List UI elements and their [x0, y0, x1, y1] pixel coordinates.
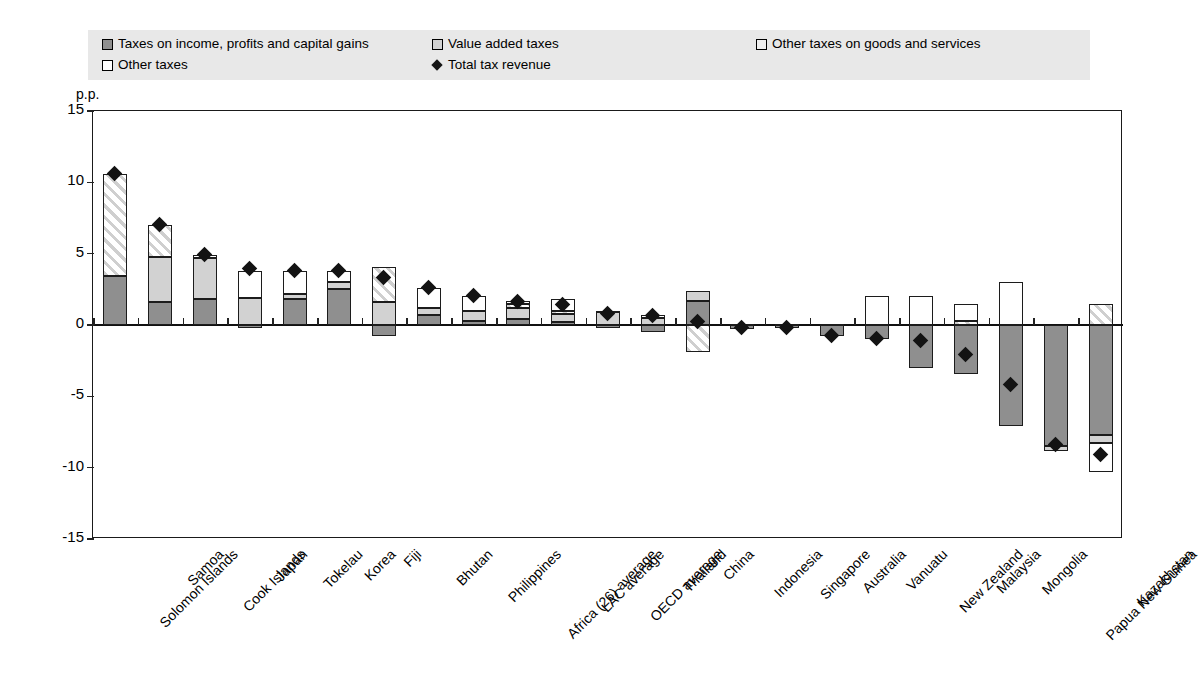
- bar-segment: [506, 319, 530, 325]
- x-category-label: Kazakhstan: [1133, 546, 1196, 609]
- bar-segment: [954, 321, 978, 325]
- legend-label-goods: Other taxes on goods and services: [772, 37, 981, 51]
- bar-group[interactable]: [148, 111, 172, 539]
- bar-segment: [865, 296, 889, 325]
- plot-area: [92, 110, 1122, 538]
- bar-group[interactable]: [103, 111, 127, 539]
- bar-group[interactable]: [775, 111, 799, 539]
- y-tick-mark: [87, 396, 94, 398]
- bar-group[interactable]: [506, 111, 530, 539]
- bar-segment: [372, 302, 396, 325]
- legend-item-total: Total tax revenue: [432, 58, 551, 72]
- total-tax-revenue-marker: [735, 320, 750, 335]
- x-category-label: Japan: [272, 546, 310, 584]
- x-tick-mark: [496, 318, 498, 325]
- legend-item-income: Taxes on income, profits and capital gai…: [102, 37, 369, 51]
- x-category-label: Papua New Guinea: [1102, 546, 1199, 643]
- bar-group[interactable]: [686, 111, 710, 539]
- bar-segment: [686, 291, 710, 301]
- bar-segment: [954, 304, 978, 321]
- total-tax-revenue-marker: [108, 166, 123, 181]
- total-tax-revenue-marker: [780, 320, 795, 335]
- legend-item-other: Other taxes: [102, 58, 188, 72]
- y-tick-label: 5: [38, 243, 84, 260]
- total-tax-revenue-marker: [421, 280, 436, 295]
- bar-group[interactable]: [1089, 111, 1113, 539]
- bar-group[interactable]: [820, 111, 844, 539]
- x-category-label: Tokelau: [320, 546, 365, 591]
- y-tick-mark: [87, 182, 94, 184]
- bar-segment: [417, 308, 441, 315]
- x-category-label: Singapore: [817, 546, 873, 602]
- x-tick-mark: [720, 318, 722, 325]
- y-tick-label: -5: [38, 385, 84, 402]
- x-tick-mark: [272, 318, 274, 325]
- bar-segment: [999, 282, 1023, 325]
- x-category-label: Bhutan: [453, 546, 496, 589]
- bar-group[interactable]: [909, 111, 933, 539]
- bar-group[interactable]: [865, 111, 889, 539]
- income-swatch: [102, 39, 113, 50]
- bar-segment: [596, 325, 620, 328]
- x-tick-mark: [317, 318, 319, 325]
- bar-group[interactable]: [954, 111, 978, 539]
- x-tick-mark: [362, 318, 364, 325]
- x-category-label: Australia: [859, 546, 909, 596]
- bar-segment: [238, 298, 262, 325]
- y-tick-mark: [87, 467, 94, 469]
- bar-group[interactable]: [1044, 111, 1068, 539]
- y-tick-mark: [87, 538, 94, 540]
- x-tick-mark: [451, 318, 453, 325]
- bar-group[interactable]: [730, 111, 754, 539]
- total-tax-revenue-marker: [824, 329, 839, 344]
- x-category-label: Korea: [361, 546, 399, 584]
- bar-group[interactable]: [999, 111, 1023, 539]
- x-category-label: Indonesia: [771, 546, 825, 600]
- bar-group[interactable]: [283, 111, 307, 539]
- bar-segment: [283, 299, 307, 325]
- bar-segment: [1089, 325, 1113, 435]
- legend-label-income: Taxes on income, profits and capital gai…: [118, 37, 369, 51]
- bar-segment: [909, 296, 933, 325]
- x-category-label: Samoa: [184, 546, 227, 589]
- bar-segment: [283, 294, 307, 300]
- bar-segment: [193, 299, 217, 325]
- x-tick-mark: [541, 318, 543, 325]
- bar-segment: [327, 289, 351, 325]
- bar-group[interactable]: [462, 111, 486, 539]
- bar-group[interactable]: [596, 111, 620, 539]
- bar-group[interactable]: [327, 111, 351, 539]
- x-category-label: Solomon Islands: [157, 546, 242, 631]
- legend-label-total: Total tax revenue: [448, 58, 551, 72]
- x-tick-mark: [854, 318, 856, 325]
- total-tax-revenue-marker: [242, 262, 257, 277]
- x-category-label: China: [719, 546, 756, 583]
- bar-group[interactable]: [193, 111, 217, 539]
- x-tick-mark: [944, 318, 946, 325]
- bar-segment: [820, 324, 844, 326]
- bar-segment: [462, 321, 486, 325]
- bar-group[interactable]: [238, 111, 262, 539]
- bar-segment: [1089, 435, 1113, 444]
- bar-segment: [1044, 325, 1068, 446]
- total-tax-revenue-marker: [197, 248, 212, 263]
- bar-group[interactable]: [551, 111, 575, 539]
- legend-label-other: Other taxes: [118, 58, 188, 72]
- bar-segment: [327, 282, 351, 289]
- x-category-label: LAC average: [598, 546, 667, 615]
- bar-segment: [193, 258, 217, 299]
- total-tax-revenue-marker: [153, 218, 168, 233]
- x-tick-mark: [586, 318, 588, 325]
- total-tax-revenue-marker: [466, 289, 481, 304]
- x-tick-mark: [406, 318, 408, 325]
- legend-item-vat: Value added taxes: [432, 37, 559, 51]
- total-tax-revenue-marker: [287, 263, 302, 278]
- x-category-label: Africa (26) average: [564, 546, 660, 642]
- bar-group[interactable]: [641, 111, 665, 539]
- total-tax-revenue-marker: [1093, 447, 1108, 462]
- x-tick-mark: [630, 318, 632, 325]
- bar-group[interactable]: [417, 111, 441, 539]
- x-category-label: Malaysia: [993, 546, 1043, 596]
- total-tax-revenue-marker: [690, 315, 705, 330]
- bar-group[interactable]: [372, 111, 396, 539]
